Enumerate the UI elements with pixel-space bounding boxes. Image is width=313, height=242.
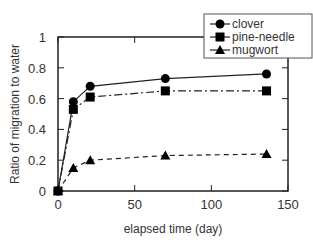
data-point-clover	[262, 69, 271, 78]
data-point-clover	[86, 82, 95, 91]
data-point-clover	[69, 97, 78, 106]
legend-marker-pine-needle	[216, 33, 225, 42]
x-tick-label: 150	[277, 197, 299, 212]
legend-label: mugwort	[232, 43, 279, 57]
data-point-mugwort	[68, 163, 78, 172]
data-point-mugwort	[160, 151, 170, 160]
data-point-pine-needle	[86, 93, 95, 102]
plot-frame	[58, 37, 288, 191]
data-point-clover	[161, 74, 170, 83]
y-axis-label: Ratio of migration to water	[8, 44, 22, 184]
x-axis-label: elapsed time (day)	[124, 222, 223, 236]
y-tick-label: 0.4	[28, 122, 46, 137]
y-tick-label: 0	[39, 184, 46, 199]
chart: 05010015000.20.40.60.81elapsed time (day…	[0, 0, 313, 242]
y-tick-label: 0.6	[28, 92, 46, 107]
legend-marker-clover	[216, 20, 225, 29]
data-point-pine-needle	[161, 86, 170, 95]
x-tick-label: 0	[54, 197, 61, 212]
legend-label: clover	[232, 17, 264, 31]
y-tick-label: 0.2	[28, 153, 46, 168]
x-tick-label: 50	[127, 197, 141, 212]
legend-label: pine-needle	[232, 30, 295, 44]
data-point-pine-needle	[262, 86, 271, 95]
chart-svg: 05010015000.20.40.60.81elapsed time (day…	[0, 0, 313, 242]
y-tick-label: 0.8	[28, 61, 46, 76]
series-line-pine-needle	[58, 91, 267, 191]
data-point-pine-needle	[69, 105, 78, 114]
y-tick-label: 1	[39, 30, 46, 45]
x-tick-label: 100	[200, 197, 222, 212]
